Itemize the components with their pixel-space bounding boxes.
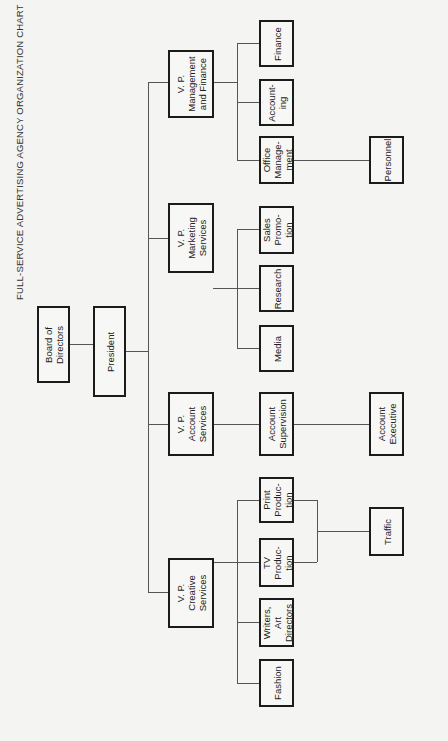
node-label: Traffic xyxy=(381,519,392,545)
connector-to-office-mgmt xyxy=(237,160,259,161)
connector-to-accounting xyxy=(237,102,259,103)
connector-sup-exec xyxy=(293,424,369,425)
node-vp-creative: V. P. Creative Services xyxy=(168,558,214,628)
connector-to-fashion xyxy=(237,683,259,684)
node-label: Research xyxy=(271,268,282,309)
connector-to-writers xyxy=(237,622,259,623)
node-label: Account Supervision xyxy=(266,399,288,449)
node-label: V. P. Account Services xyxy=(175,406,208,442)
node-label: President xyxy=(104,331,115,371)
connector-president-trunk xyxy=(125,351,148,352)
node-label: Office Manage- ment xyxy=(260,141,293,179)
connector-to-media xyxy=(237,348,259,349)
node-traffic: Traffic xyxy=(369,507,404,556)
connector-to-vp-mf xyxy=(148,82,168,83)
connector-to-vp-mkt xyxy=(148,238,168,239)
connector-print-out xyxy=(293,500,317,501)
connector-to-print xyxy=(237,500,259,501)
node-office-management: Office Manage- ment xyxy=(259,136,294,184)
node-label: Print Produc- tion xyxy=(260,483,293,516)
node-media: Media xyxy=(259,325,294,372)
connector-mkt-out xyxy=(213,288,237,289)
node-label: Writers, Art Directors xyxy=(260,603,293,641)
node-label: Sales Promo- tion xyxy=(260,214,293,245)
connector-acc-out xyxy=(213,424,259,425)
node-vp-account: V. P. Account Services xyxy=(168,392,214,456)
node-personnel: Personnel xyxy=(369,136,404,184)
node-label: Finance xyxy=(271,27,282,61)
node-print-production: Print Produc- tion xyxy=(259,477,294,523)
connector-to-finance xyxy=(237,43,259,44)
connector-to-vp-acc xyxy=(148,424,168,425)
node-label: TV Produc- tion xyxy=(260,546,293,579)
org-chart: FULL-SERVICE ADVERTISING AGENCY ORGANIZA… xyxy=(0,0,448,741)
node-label: Fashion xyxy=(271,666,282,700)
connector-cre-out xyxy=(213,562,237,563)
node-account-executive: Account Executive xyxy=(369,392,404,456)
connector-cre-trunk xyxy=(237,500,238,683)
node-research: Research xyxy=(259,265,294,312)
connector-mf-out xyxy=(213,82,237,83)
chart-title: FULL-SERVICE ADVERTISING AGENCY ORGANIZA… xyxy=(14,4,25,300)
connector-office-personnel xyxy=(293,160,369,161)
node-label: Account Executive xyxy=(376,403,398,444)
node-vp-management-finance: V. P. Management and Finance xyxy=(168,50,214,118)
node-accounting: Account- ing xyxy=(259,79,294,126)
node-label: Account- ing xyxy=(266,84,288,122)
connector-to-traffic xyxy=(317,531,369,532)
node-vp-marketing: V. P. Marketing Services xyxy=(168,203,214,273)
node-label: Personnel xyxy=(381,139,392,182)
node-tv-production: TV Produc- tion xyxy=(259,538,294,587)
node-board-of-directors: Board of Directors xyxy=(37,306,70,383)
connector-to-sales-promo xyxy=(237,229,259,230)
node-label: V. P. Marketing Services xyxy=(175,217,208,259)
node-fashion: Fashion xyxy=(259,659,294,707)
connector-to-vp-cre xyxy=(148,592,168,593)
connector-vp-trunk xyxy=(148,82,149,592)
connector-board-president xyxy=(69,344,93,345)
node-label: V. P. Creative Services xyxy=(175,575,208,611)
node-account-supervision: Account Supervision xyxy=(259,392,294,456)
connector-to-research xyxy=(237,288,259,289)
node-finance: Finance xyxy=(259,20,294,67)
connector-tv-out xyxy=(293,562,317,563)
node-sales-promotion: Sales Promo- tion xyxy=(259,206,294,254)
connector-to-tv xyxy=(237,562,259,563)
node-label: Media xyxy=(271,336,282,362)
node-writers-art-directors: Writers, Art Directors xyxy=(259,598,294,647)
node-label: Board of Directors xyxy=(43,325,65,363)
node-president: President xyxy=(93,306,126,397)
node-label: V. P. Management and Finance xyxy=(175,56,208,111)
